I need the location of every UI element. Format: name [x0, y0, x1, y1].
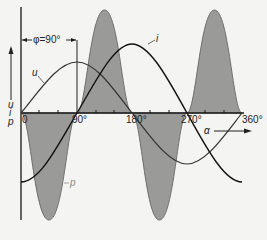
i-curve-label: i: [156, 34, 158, 44]
tick-label-180: 180°: [126, 115, 147, 125]
phase-label: φ=90°: [33, 35, 60, 45]
tick-label-360: 360°: [242, 115, 263, 125]
tick-label-90: 90°: [72, 115, 87, 125]
tick-label-0: 0: [22, 115, 28, 125]
p-curve-label: p: [70, 178, 76, 188]
x-axis-label-alpha: α: [204, 126, 210, 136]
u-curve-label: u: [32, 68, 38, 78]
y-axis-label-p: p: [8, 117, 14, 127]
tick-label-270: 270°: [181, 115, 202, 125]
